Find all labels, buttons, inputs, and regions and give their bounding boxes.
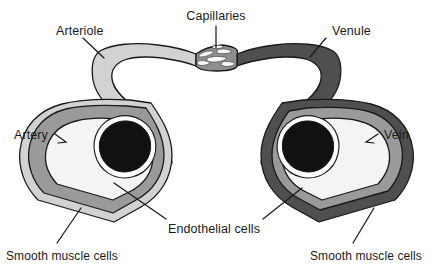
label-venule: Venule: [332, 24, 371, 38]
label-smooth-muscle-cells-left: Smooth muscle cells: [6, 249, 118, 263]
label-smooth-muscle-cells-right: Smooth muscle cells: [310, 249, 422, 263]
capillary-bed: [196, 45, 238, 71]
label-capillaries: Capillaries: [186, 9, 245, 23]
label-endothelial-cells: Endothelial cells: [168, 222, 260, 236]
artery-blood-cell-mass: [99, 121, 150, 172]
label-vein: Vein: [384, 128, 409, 142]
leader-smooth-muscle-left: [57, 208, 81, 243]
vein-blood-cell-mass: [282, 121, 333, 172]
diagram-canvas: Capillaries Arteriole Venule Artery Vein…: [0, 0, 433, 268]
label-arteriole: Arteriole: [56, 24, 103, 38]
leader-arteriole: [83, 38, 104, 58]
vascular-diagram-figure: Capillaries Arteriole Venule Artery Vein…: [0, 0, 433, 268]
label-artery: Artery: [14, 128, 49, 142]
artery-cross-section: [20, 99, 172, 222]
vein-cross-section: [261, 99, 413, 222]
leader-smooth-muscle-right: [353, 208, 374, 243]
